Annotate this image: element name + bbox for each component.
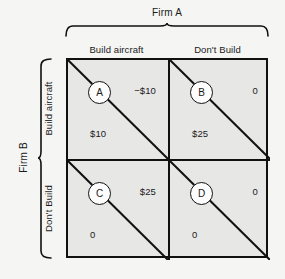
row-label-dont-build: Don't Build [43,159,54,259]
cell-c-upper-payoff: $25 [140,186,156,197]
cell-d-upper-payoff: 0 [253,186,258,197]
cell-c-lower-payoff: 0 [90,229,95,240]
column-label-build-aircraft: Build aircraft [66,44,167,55]
payoff-matrix-figure: Firm A Build aircraft Don't Build Firm B… [0,0,285,279]
matrix-grid: −$10 $10 A 0 $25 B $25 0 C 0 [66,58,268,258]
matrix-cell-c[interactable]: $25 0 C [68,161,168,260]
column-label-dont-build: Don't Build [167,44,268,55]
cell-a-node-label: A [88,81,111,104]
cell-c-node-label: C [88,182,111,205]
diagonal-line-icon [68,60,168,159]
diagonal-line-icon [170,60,270,159]
cell-b-lower-payoff: $25 [192,128,208,139]
cell-a-upper-payoff: −$10 [134,85,156,96]
column-group-title: Firm A [66,7,268,18]
cell-b-upper-payoff: 0 [253,85,258,96]
diagonal-line-icon [68,161,168,260]
top-brace-icon [64,23,270,37]
matrix-cell-d[interactable]: 0 0 D [170,161,270,260]
row-label-build-aircraft: Build aircraft [43,59,54,159]
cell-a-lower-payoff: $10 [90,128,106,139]
cell-d-lower-payoff: 0 [192,229,197,240]
diagonal-line-icon [170,161,270,260]
row-group-title: Firm B [18,123,29,193]
cell-d-node-label: D [190,182,213,205]
cell-b-node-label: B [190,81,213,104]
matrix-cell-a[interactable]: −$10 $10 A [68,60,168,159]
matrix-cell-b[interactable]: 0 $25 B [170,60,270,159]
